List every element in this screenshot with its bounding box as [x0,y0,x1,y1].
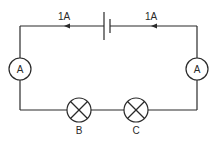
bulb-c: C [124,98,148,136]
current-label-left: 1A [58,11,71,22]
ammeter-left: A [9,58,31,80]
current-label-right: 1A [145,11,158,22]
ammeter-right-label: A [194,64,201,75]
bulb-b: B [67,98,91,136]
current-arrow-right-icon [151,24,157,29]
bulb-c-label: C [132,125,139,136]
battery-cell [104,12,110,40]
circuit-diagram: 1A 1A A A B C [0,0,215,142]
bulb-b-label: B [76,125,83,136]
ammeter-right: A [186,58,208,80]
current-arrow-left-icon [64,24,70,29]
wires [20,26,197,110]
ammeter-left-label: A [17,64,24,75]
